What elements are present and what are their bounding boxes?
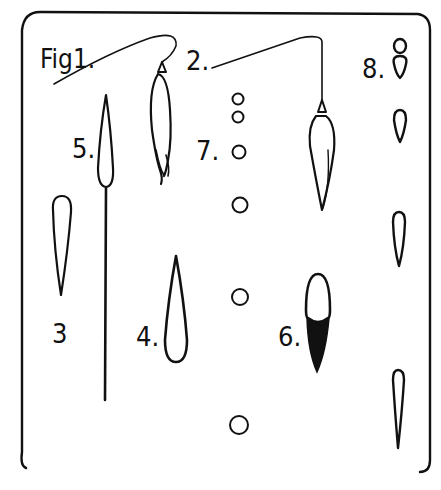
fig6-half-filled-oval: [306, 274, 330, 372]
fig7-circle-series: [230, 94, 248, 435]
label-fig7: 7.: [196, 135, 219, 166]
label-fig6: 6.: [278, 321, 301, 352]
label-fig3: 3: [52, 318, 67, 349]
label-fig5: 5.: [72, 133, 95, 164]
fig1-seed: [151, 62, 171, 184]
fig4-drop: [165, 256, 187, 362]
fig5-stalked-drop: [98, 95, 113, 400]
fig3-drop: [53, 196, 71, 295]
label-fig2: 2.: [186, 45, 209, 76]
fig2-seed: [310, 100, 335, 210]
figure-plate: Fig1. 2. 8. 5. 3 4. 7.: [0, 0, 441, 490]
label-fig8: 8.: [362, 53, 385, 84]
label-fig4: 4.: [136, 321, 159, 352]
fig2-thread: [212, 37, 322, 100]
fig8-drops: [393, 39, 406, 448]
label-fig1: Fig1.: [40, 44, 95, 74]
